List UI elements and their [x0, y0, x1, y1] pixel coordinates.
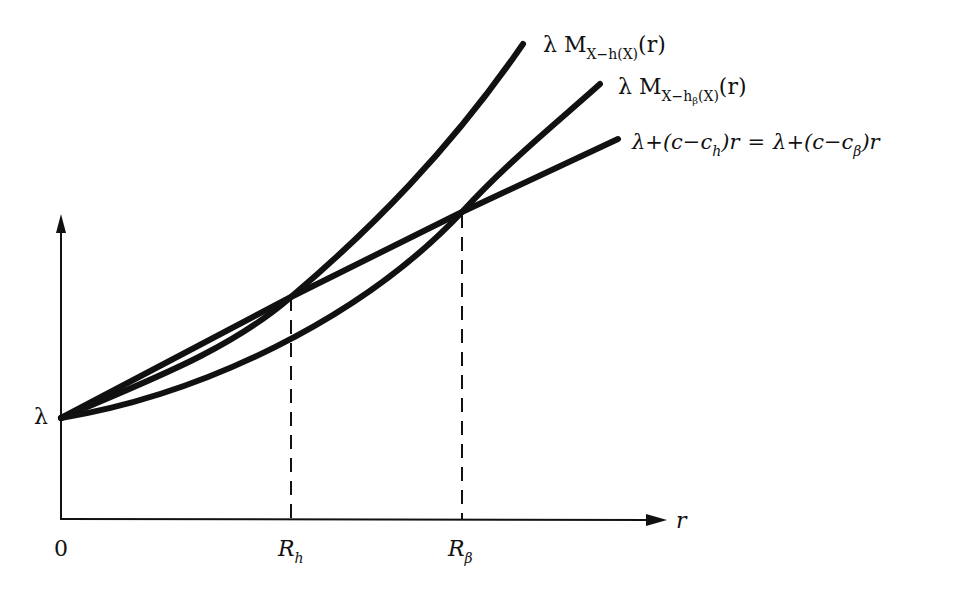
- x-axis: [60, 519, 650, 520]
- line-label-left-a: λ+(c−c: [632, 130, 712, 154]
- line-label-equals: =: [747, 130, 765, 154]
- x-axis-arrow-icon: [646, 514, 667, 526]
- medium-curve-label-tail: (r): [719, 74, 747, 99]
- steep-curve: [61, 44, 523, 418]
- steep-curve-label-tail: (r): [638, 32, 666, 57]
- y-axis-arrow-icon: [56, 214, 66, 233]
- steep-curve-label-main: λ M: [543, 32, 586, 57]
- rbeta-tick-main: R: [448, 536, 465, 561]
- rh-tick-main: R: [278, 536, 295, 561]
- medium-curve-label-sub-pre: X−h: [661, 88, 692, 104]
- diagram: λ MX−h(X)(r) λ MX−hβ(X)(r) λ+(c−ch)r=λ+(…: [0, 0, 975, 608]
- line-label-right-b: )r: [861, 130, 879, 154]
- steep-curve-label: λ MX−h(X)(r): [543, 34, 666, 61]
- rbeta-tick-label: Rβ: [448, 538, 473, 565]
- medium-curve-label-sub-post: (X): [698, 88, 719, 104]
- rbeta-tick-sub: β: [465, 550, 473, 566]
- line-label-left-b: )r: [721, 130, 739, 154]
- line-label-right-a: λ+(c−c: [773, 130, 853, 154]
- x-axis-label: r: [676, 510, 687, 532]
- rh-tick-label: Rh: [278, 538, 304, 565]
- rh-tick-sub: h: [295, 550, 304, 566]
- plot-canvas: [0, 0, 975, 608]
- medium-curve-label: λ MX−hβ(X)(r): [618, 76, 747, 106]
- origin-label: 0: [54, 538, 68, 560]
- lambda-tick-label: λ: [34, 406, 48, 428]
- medium-curve-label-main: λ M: [618, 74, 661, 99]
- line-label: λ+(c−ch)r=λ+(c−cβ)r: [632, 132, 880, 158]
- linear-line: [61, 139, 618, 418]
- line-label-left-sub: h: [712, 143, 721, 159]
- medium-curve: [61, 84, 600, 418]
- steep-curve-label-sub: X−h(X): [586, 46, 638, 62]
